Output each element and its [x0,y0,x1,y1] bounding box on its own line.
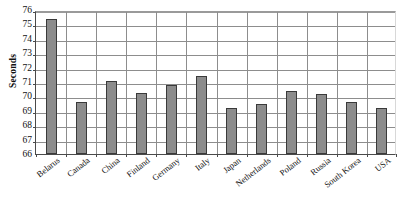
gridline [36,55,395,56]
y-tick-label: 68 [12,121,32,131]
y-tick-label: 69 [12,107,32,117]
category-separator [66,12,67,154]
y-tick-mark [33,26,36,27]
y-tick-label: 73 [12,49,32,59]
y-tick-mark [33,98,36,99]
bar [76,102,87,154]
y-tick-mark [33,142,36,143]
bar [316,94,327,154]
bar [256,104,267,154]
bar [286,91,297,154]
bar [346,102,357,154]
bar-chart: Seconds 6667686970717273747576 BelarusCa… [0,0,400,207]
category-separator [96,12,97,154]
y-tick-label: 67 [12,136,32,146]
y-tick-mark [33,127,36,128]
gridline [36,113,395,114]
category-separator [337,12,338,154]
gridline [36,127,395,128]
y-tick-mark [33,55,36,56]
gridline [36,70,395,71]
bar [106,81,117,154]
y-axis-tick-labels: 6667686970717273747576 [12,11,32,155]
category-separator [217,12,218,154]
y-tick-mark [33,70,36,71]
gridline [36,12,395,13]
bar [226,108,237,154]
y-tick-mark [33,12,36,13]
category-separator [156,12,157,154]
category-separator [186,12,187,154]
y-tick-label: 74 [12,35,32,45]
x-tick-mark [396,154,397,157]
category-separator [126,12,127,154]
x-axis-tick-labels: BelarusCanadaChinaFinlandGermanyItalyJap… [35,156,396,207]
bar [166,85,177,154]
category-separator [277,12,278,154]
y-tick-label: 75 [12,21,32,31]
gridline [36,84,395,85]
bar [136,93,147,154]
bar [376,108,387,154]
gridline [36,41,395,42]
plot-area [35,11,396,155]
bar [46,19,57,154]
gridline [36,26,395,27]
gridline [36,142,395,143]
y-tick-label: 71 [12,78,32,88]
category-separator [367,12,368,154]
y-tick-label: 70 [12,93,32,103]
y-tick-mark [33,113,36,114]
y-tick-label: 66 [12,150,32,160]
y-tick-label: 72 [12,64,32,74]
y-tick-mark [33,84,36,85]
y-tick-label: 76 [12,6,32,16]
category-separator [247,12,248,154]
y-tick-mark [33,41,36,42]
bar [196,76,207,154]
gridline [36,98,395,99]
category-separator [307,12,308,154]
